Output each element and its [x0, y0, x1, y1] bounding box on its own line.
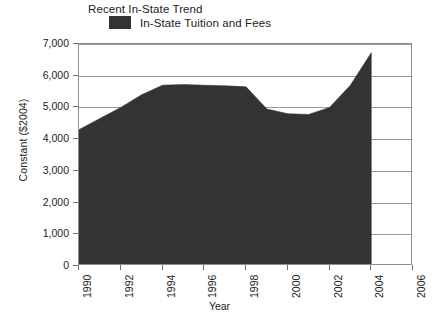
x-axis-tick — [412, 265, 413, 270]
y-axis-tick-label: 6,000 — [43, 70, 69, 80]
y-axis-tick-label: 0 — [63, 260, 69, 270]
x-axis-tick — [370, 265, 371, 270]
x-axis-tick-label: 1996 — [207, 275, 217, 298]
x-axis-tick-label: 2004 — [374, 275, 384, 298]
y-axis-tick-label: 5,000 — [43, 101, 69, 111]
area-series-in-state-tuition — [79, 44, 412, 265]
legend-label-in-state-tuition: In-State Tuition and Fees — [140, 17, 271, 29]
x-axis-tick-label: 2002 — [333, 275, 343, 298]
x-axis-tick-label: 1990 — [82, 275, 92, 298]
x-axis-tick-label: 1992 — [124, 275, 134, 298]
plot-area — [78, 43, 412, 265]
y-axis-tick-label: 3,000 — [43, 165, 69, 175]
y-axis-tick-label: 2,000 — [43, 197, 69, 207]
y-axis-title: Constant ($2004) — [17, 75, 29, 205]
y-axis-tick-label: 1,000 — [43, 228, 69, 238]
x-axis-tick — [120, 265, 121, 270]
x-axis-tick-label: 1994 — [166, 275, 176, 298]
chart-container: Recent In-State Trend In-State Tuition a… — [0, 0, 439, 320]
x-axis-tick-label: 1998 — [249, 275, 259, 298]
y-axis-tick-label: 7,000 — [43, 38, 69, 48]
x-axis-tick — [329, 265, 330, 270]
y-axis-tick-label: 4,000 — [43, 133, 69, 143]
x-axis-title: Year — [0, 300, 439, 312]
chart-title: Recent In-State Trend — [88, 3, 203, 15]
x-axis-tick — [287, 265, 288, 270]
x-axis-tick-label: 2006 — [416, 275, 426, 298]
x-axis-tick — [245, 265, 246, 270]
x-axis-tick — [78, 265, 79, 270]
x-axis-tick — [203, 265, 204, 270]
legend-swatch-in-state-tuition — [109, 16, 131, 29]
chart-legend: In-State Tuition and Fees — [109, 16, 271, 29]
x-axis-tick-label: 2000 — [291, 275, 301, 298]
x-axis-tick — [162, 265, 163, 270]
